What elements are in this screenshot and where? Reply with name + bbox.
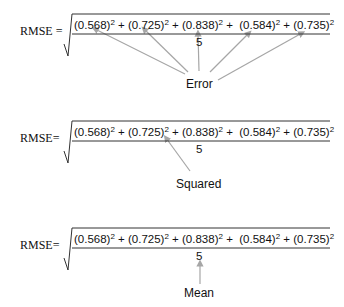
equation-mean: RMSE= (0.568)2 + (0.725)2 + (0.838)2 + (… [0,224,344,274]
numerator: (0.568)2 + (0.725)2 + (0.838)2 + (0.584)… [74,125,334,138]
caption-error: Error [186,77,213,91]
rmse-label: RMSE = [20,24,62,39]
denominator: 5 [196,250,202,262]
numerator: (0.568)2 + (0.725)2 + (0.838)2 + (0.584)… [74,232,334,245]
rmse-label: RMSE= [20,238,59,253]
equation-squared: RMSE= (0.568)2 + (0.725)2 + (0.838)2 + (… [0,117,344,167]
denominator: 5 [196,143,202,155]
numerator: (0.568)2 + (0.725)2 + (0.838)2 + (0.584)… [74,18,334,31]
rmse-label: RMSE= [20,131,59,146]
denominator: 5 [196,36,202,48]
caption-squared: Squared [176,177,221,191]
caption-mean: Mean [184,286,214,300]
equation-error: RMSE = (0.568)2 + (0.725)2 + (0.838)2 + … [0,10,344,60]
